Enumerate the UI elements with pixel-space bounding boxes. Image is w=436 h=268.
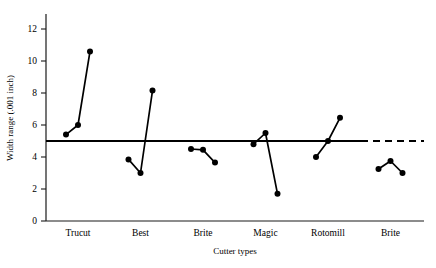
data-point (325, 138, 331, 144)
data-point (150, 88, 156, 94)
data-point (138, 170, 144, 176)
chart-container: 024681012 TrucutBestBriteMagicRotomillBr… (0, 0, 436, 268)
data-point (376, 166, 382, 172)
y-axis-tick-label: 10 (28, 56, 38, 66)
data-point (388, 158, 394, 164)
data-point (63, 132, 69, 138)
data-point (126, 156, 132, 162)
x-axis-category-label: Brite (381, 228, 400, 238)
x-axis-category-label: Magic (253, 228, 277, 238)
y-axis-tick-label: 0 (32, 216, 37, 226)
y-axis-tick-label: 4 (32, 152, 37, 162)
data-point (400, 170, 406, 176)
data-point (200, 147, 206, 153)
x-axis-title: Cutter types (213, 246, 257, 256)
y-axis-tick-label: 6 (32, 120, 37, 130)
x-axis-category-label: Rotomill (311, 228, 345, 238)
data-point (188, 146, 194, 152)
data-point (275, 191, 281, 197)
data-point (337, 115, 343, 121)
x-axis-category-label: Trucut (66, 228, 91, 238)
data-point (75, 122, 81, 128)
y-axis-tick-label: 12 (28, 24, 38, 34)
data-point (251, 141, 257, 147)
data-point (263, 130, 269, 136)
cutter-width-range-chart: 024681012 TrucutBestBriteMagicRotomillBr… (0, 0, 436, 268)
y-axis-tick-label: 8 (32, 88, 37, 98)
x-axis-category-label: Brite (194, 228, 213, 238)
x-axis-category-label: Best (132, 228, 149, 238)
data-point (87, 48, 93, 54)
y-axis-title: Width range (.001 inch) (5, 75, 15, 161)
data-point (212, 160, 218, 166)
y-axis-tick-label: 2 (32, 184, 37, 194)
data-point (313, 154, 319, 160)
